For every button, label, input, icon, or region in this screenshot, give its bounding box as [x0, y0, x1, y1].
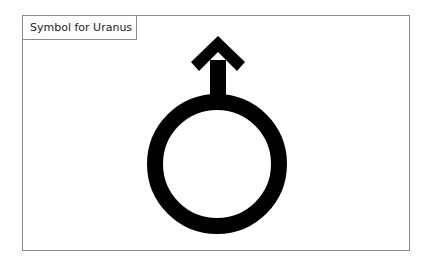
arrow-shaft	[210, 60, 226, 100]
ring	[155, 102, 279, 226]
uranus-symbol-icon	[0, 0, 432, 264]
